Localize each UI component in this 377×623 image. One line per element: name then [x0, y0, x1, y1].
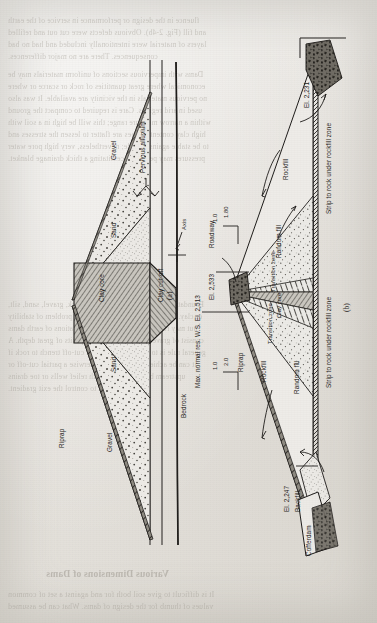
diagram-a: Gravel Sand Clay core Clay cut-off Sand …: [58, 60, 187, 545]
label-transition-zone-upper: Transition zone: [270, 251, 276, 292]
label-backfill: Backfill: [294, 491, 301, 512]
zone-clay-core: [74, 263, 150, 343]
label-random-fill-upper: Random fill: [275, 225, 282, 258]
label-strip-note-upper: Strip to rock under rockfill zone: [325, 123, 333, 214]
label-sand-downstream: Sand: [110, 356, 117, 372]
label-riprap-b: Riprap: [237, 352, 245, 372]
label-riprap-a: Riprap: [58, 428, 66, 448]
label-clay-cutoff: Clay cut-off: [157, 268, 165, 302]
label-rockfill-upper: Rockfill: [282, 159, 289, 180]
caption-a: (a): [165, 291, 174, 300]
label-slope-downstream-h: 1.80: [223, 206, 229, 218]
label-max-reservoir-level: Max. normal res. W.S. El. 2,513: [194, 295, 201, 388]
caption-b: (b): [342, 303, 351, 312]
label-axis-a: Axis: [181, 219, 187, 230]
label-cofferdam: Cofferdam: [305, 525, 312, 556]
label-transition-zone-lower: Transition zone: [267, 303, 273, 344]
slope-indicator-upstream: [223, 372, 238, 390]
diagram-b: El. 2,231 Rockfill Strip to rock under r…: [194, 38, 351, 556]
cofferdam-toe-rubble: [312, 502, 338, 552]
dam-cross-section-figure: Gravel Sand Clay core Clay cut-off Sand …: [0, 0, 377, 623]
label-random-fill-lower: Random fill: [293, 361, 300, 394]
label-clay-core-b: Clay core: [276, 293, 282, 318]
label-gravel-upstream: Gravel: [110, 141, 117, 160]
slope-indicator-downstream: [223, 226, 238, 244]
label-elevation-2247: El. 2,247: [283, 486, 290, 512]
label-slope-upstream-h: 2.0: [223, 358, 229, 366]
label-gravel-downstream: Gravel: [106, 433, 113, 452]
label-elevation-crest: El. 2,533: [208, 274, 215, 300]
label-strip-note-lower: Strip to rock under rockfill zone: [325, 297, 333, 388]
bedrock-line: [176, 62, 178, 545]
label-roadway: Roadway: [208, 220, 216, 248]
label-elevation-2231: El. 2,231: [303, 82, 310, 108]
label-bedrock: Bedrock: [180, 393, 187, 418]
label-pervious-alluvium: Pervious alluvium: [139, 121, 146, 173]
label-rockfill-lower: Rockfill: [260, 361, 267, 382]
label-slope-upstream-v: 1.0: [212, 362, 218, 370]
crest-roadway-block: [229, 272, 250, 305]
label-clay-core: Clay core: [98, 274, 106, 302]
label-sand-upstream: Sand: [110, 222, 117, 238]
